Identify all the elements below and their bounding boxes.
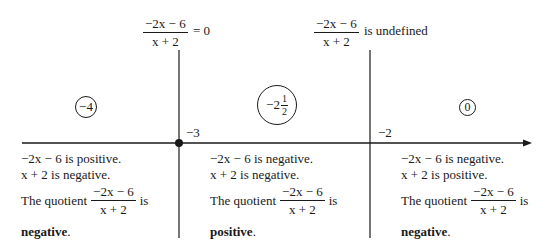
fraction-denominator: 2 bbox=[282, 106, 287, 117]
denominator: x + 2 bbox=[100, 201, 127, 216]
fraction-part: 1 2 bbox=[281, 94, 288, 117]
fraction: −2x − 6 x + 2 bbox=[314, 17, 359, 48]
test-value-text: −4 bbox=[79, 99, 93, 115]
numerator: −2x − 6 bbox=[280, 185, 325, 201]
denominator: x + 2 bbox=[289, 201, 316, 216]
quotient-prefix: The quotient bbox=[210, 193, 276, 209]
label-suffix: is undefined bbox=[364, 23, 428, 38]
label-suffix: = 0 bbox=[193, 23, 210, 38]
quotient-prefix: The quotient bbox=[21, 193, 87, 209]
numerator-sign: −2x − 6 is negative. bbox=[210, 151, 337, 167]
fraction: −2x − 6 x + 2 bbox=[471, 185, 516, 216]
result-punct: . bbox=[447, 224, 450, 239]
label-equals-zero: −2x − 6 x + 2 = 0 bbox=[143, 17, 210, 48]
result-word: negative bbox=[21, 224, 67, 239]
numerator: −2x − 6 bbox=[91, 185, 136, 201]
result-punct: . bbox=[253, 224, 256, 239]
quotient-suffix: is bbox=[520, 193, 529, 209]
quotient-result: negative. bbox=[21, 224, 148, 240]
quotient-suffix: is bbox=[329, 193, 338, 209]
denominator: x + 2 bbox=[152, 33, 179, 48]
denominator: x + 2 bbox=[480, 201, 507, 216]
quotient-prefix: The quotient bbox=[401, 193, 467, 209]
result-punct: . bbox=[67, 224, 70, 239]
quotient-line: The quotient −2x − 6 x + 2 is bbox=[21, 185, 148, 216]
result-word: positive bbox=[210, 224, 253, 239]
denominator: x + 2 bbox=[323, 33, 350, 48]
result-word: negative bbox=[401, 224, 447, 239]
whole-part: −2 bbox=[266, 97, 280, 113]
arrow-right-icon bbox=[523, 140, 532, 147]
quotient-suffix: is bbox=[140, 193, 149, 209]
region-right: −2x − 6 is negative. x + 2 is positive. … bbox=[401, 151, 528, 240]
fraction: −2x − 6 x + 2 bbox=[280, 185, 325, 216]
mixed-number: −2 1 2 bbox=[266, 94, 288, 117]
filled-dot-icon bbox=[175, 139, 183, 147]
critical-point-label-minus-3: −3 bbox=[186, 125, 200, 141]
quotient-result: negative. bbox=[401, 224, 528, 240]
numerator: −2x − 6 bbox=[471, 185, 516, 201]
test-value-0: 0 bbox=[459, 99, 476, 116]
region-middle: −2x − 6 is negative. x + 2 is negative. … bbox=[210, 151, 337, 240]
quotient-result: positive. bbox=[210, 224, 337, 240]
denominator-sign: x + 2 is positive. bbox=[401, 167, 528, 183]
critical-point-label-minus-2: −2 bbox=[378, 125, 392, 141]
denominator-sign: x + 2 is negative. bbox=[21, 167, 148, 183]
quotient-line: The quotient −2x − 6 x + 2 is bbox=[210, 185, 337, 216]
test-value-text: 0 bbox=[465, 100, 471, 115]
test-value-minus-2-half: −2 1 2 bbox=[257, 85, 297, 125]
numerator-sign: −2x − 6 is positive. bbox=[21, 151, 148, 167]
denominator-sign: x + 2 is negative. bbox=[210, 167, 337, 183]
quotient-line: The quotient −2x − 6 x + 2 is bbox=[401, 185, 528, 216]
numerator: −2x − 6 bbox=[143, 17, 188, 33]
label-undefined: −2x − 6 x + 2 is undefined bbox=[314, 17, 428, 48]
region-left: −2x − 6 is positive. x + 2 is negative. … bbox=[21, 151, 148, 240]
test-value-minus-4: −4 bbox=[75, 96, 97, 118]
numerator-sign: −2x − 6 is negative. bbox=[401, 151, 528, 167]
numerator: −2x − 6 bbox=[314, 17, 359, 33]
fraction: −2x − 6 x + 2 bbox=[91, 185, 136, 216]
fraction-numerator: 1 bbox=[281, 94, 288, 106]
fraction: −2x − 6 x + 2 bbox=[143, 17, 188, 48]
